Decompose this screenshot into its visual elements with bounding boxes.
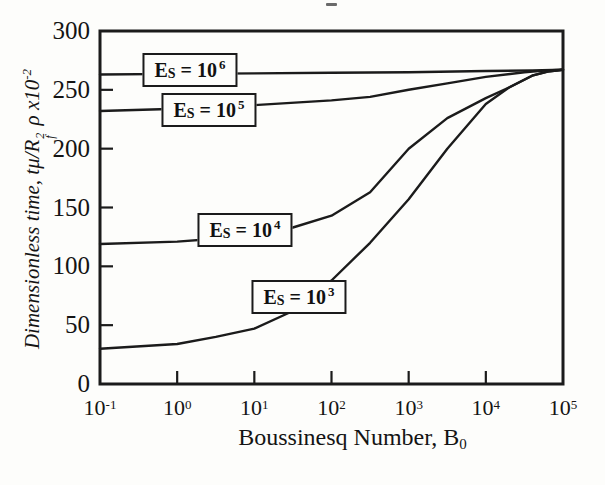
scan-artifact-dash [326, 3, 337, 6]
y-axis-label-text-2: ρ x10 [20, 80, 44, 131]
y-axis-exponent: -2 [19, 69, 34, 80]
r-sup-sub: 2f [35, 133, 55, 139]
r-subscript: f [45, 135, 55, 138]
x-axis-label-subscript: 0 [459, 436, 467, 452]
chart-figure: 30025020015010050010-1100101102103104105… [0, 0, 605, 485]
curve-es-10-6 [100, 70, 563, 75]
plot-area [0, 0, 605, 485]
y-axis-label: Dimensionless time, tμ/R2f ρ x10-2 [11, 9, 43, 409]
curve-es-10-3 [100, 70, 563, 349]
x-axis-label: Boussinesq Number, B0 [180, 424, 525, 453]
curve-es-10-5 [100, 70, 563, 111]
curve-es-10-4 [100, 70, 563, 244]
plot-frame [100, 31, 563, 384]
x-axis-label-text: Boussinesq Number, B [238, 424, 459, 450]
y-axis-label-text: Dimensionless time, tμ/R [20, 140, 44, 349]
